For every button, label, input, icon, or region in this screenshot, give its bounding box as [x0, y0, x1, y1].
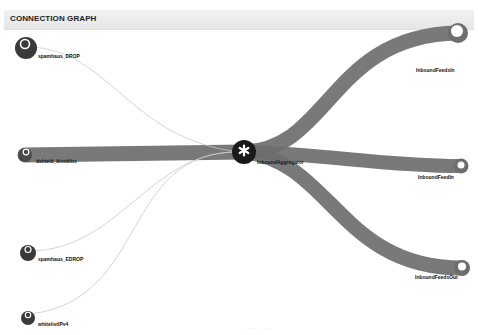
node-label: InboundFeedIn: [418, 174, 454, 180]
connection-graph: spamhaus_DROP dshield_blocklist spamhaus…: [0, 0, 478, 335]
node-label: spamhaus_DROP: [38, 53, 81, 59]
node-ring-icon: [458, 263, 466, 271]
connection-graph-panel: CONNECTION GRAPH spamhaus_DROP dshield_b…: [0, 0, 478, 335]
source-node-3[interactable]: spamhaus_EDROP: [20, 245, 84, 262]
node-label: spamhaus_EDROP: [38, 256, 84, 262]
thin-links: [30, 47, 240, 314]
footer-note: · · · · · · · · ·: [245, 325, 271, 331]
source-node-4[interactable]: whitelistIPv4: [21, 311, 69, 327]
node-label: InboundFeedsOut: [415, 274, 458, 280]
source-node-1[interactable]: spamhaus_DROP: [15, 37, 81, 59]
link-src1-hub[interactable]: [30, 47, 240, 152]
flow-src2-hub[interactable]: [25, 152, 244, 155]
flow-hub-dst1[interactable]: [244, 33, 458, 152]
node-label: InboundAggregator: [257, 159, 304, 165]
link-src3-hub[interactable]: [30, 152, 240, 251]
node-label: whitelistIPv4: [37, 321, 69, 327]
node-label: dshield_blocklist: [36, 158, 77, 164]
node-label: InboundFeedsIn: [416, 67, 455, 73]
link-src4-hub[interactable]: [30, 152, 240, 314]
node-ring-icon: [458, 162, 465, 169]
node-ring-icon: [451, 25, 463, 37]
